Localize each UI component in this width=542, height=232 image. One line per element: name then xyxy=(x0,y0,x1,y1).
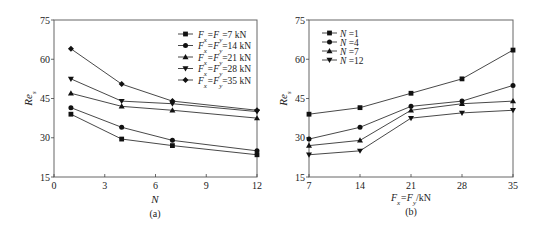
data-point xyxy=(69,112,74,117)
x-tick-label: 6 xyxy=(153,180,158,191)
data-point xyxy=(511,83,516,88)
panel-caption: (b) xyxy=(405,206,417,218)
x-tick-label: 7 xyxy=(307,180,312,191)
data-point xyxy=(307,112,312,117)
y-tick-label: 75 xyxy=(295,15,305,26)
data-point xyxy=(409,91,414,96)
data-point xyxy=(170,143,175,148)
series-1 xyxy=(69,112,260,157)
data-point xyxy=(119,125,124,130)
data-point xyxy=(306,153,312,158)
data-point xyxy=(408,116,414,121)
x-tick-label: 21 xyxy=(406,180,416,191)
legend-marker xyxy=(183,32,188,37)
series-3 xyxy=(68,90,260,120)
legend: Fx=Fy=7 kNFx=Fy=14 kNFx=Fy=21 kNFx=Fy=28… xyxy=(178,30,251,90)
y-tick-label: 60 xyxy=(40,54,50,65)
y-tick-label: 30 xyxy=(40,132,50,143)
x-tick-label: 14 xyxy=(355,180,365,191)
x-tick-label: 3 xyxy=(102,180,107,191)
x-axis-label: Fx=Fy/kN xyxy=(390,192,431,207)
legend-marker xyxy=(327,40,332,45)
data-point xyxy=(357,137,363,142)
y-tick-label: 15 xyxy=(295,172,305,183)
series-line xyxy=(71,93,257,118)
data-point xyxy=(358,125,363,130)
data-point xyxy=(511,48,516,53)
series-2 xyxy=(68,105,259,153)
data-point xyxy=(255,148,260,153)
x-tick-label: 35 xyxy=(508,180,518,191)
data-point xyxy=(170,138,175,143)
y-tick-label: 15 xyxy=(40,172,50,183)
data-point xyxy=(68,105,73,110)
y-tick-label: 75 xyxy=(40,15,50,26)
data-point xyxy=(68,77,74,82)
data-point xyxy=(460,76,465,81)
x-axis-label: N xyxy=(150,193,159,205)
data-point xyxy=(510,98,516,103)
legend-marker xyxy=(327,31,332,36)
data-point xyxy=(254,107,260,113)
y-axis-label: Res xyxy=(277,91,293,107)
panel-caption: (a) xyxy=(149,208,160,220)
y-tick-label: 45 xyxy=(295,93,305,104)
data-point xyxy=(68,90,74,95)
data-point xyxy=(68,46,74,52)
chart-canvas: 1530456075036912ResN(a)Fx=Fy=7 kNFx=Fy=1… xyxy=(0,0,542,232)
data-point xyxy=(119,137,124,142)
legend: N =1N =4N =7N =12 xyxy=(322,29,364,66)
legend-marker xyxy=(183,77,189,83)
series-line xyxy=(71,114,257,155)
chart-panel-a: 1530456075036912ResN(a)Fx=Fy=7 kNFx=Fy=1… xyxy=(22,15,262,221)
x-tick-label: 0 xyxy=(52,180,57,191)
x-tick-label: 28 xyxy=(457,180,467,191)
x-tick-label: 9 xyxy=(204,180,209,191)
chart-panel-b: 1530456075714212835ResFx=Fy/kN(b)N =1N =… xyxy=(277,15,518,219)
y-tick-label: 45 xyxy=(40,93,50,104)
legend-label: N =12 xyxy=(339,56,364,66)
y-tick-label: 30 xyxy=(295,132,305,143)
y-tick-label: 60 xyxy=(295,54,305,65)
legend-marker xyxy=(183,43,188,48)
data-point xyxy=(307,137,312,142)
y-axis-label: Res xyxy=(22,91,38,107)
x-tick-label: 12 xyxy=(252,180,262,191)
data-point xyxy=(358,105,363,110)
data-point xyxy=(119,81,125,87)
